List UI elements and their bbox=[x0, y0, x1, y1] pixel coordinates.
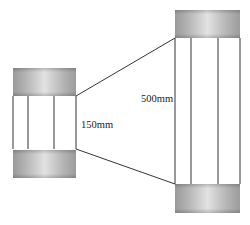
small-pipe-bottom-cap bbox=[13, 150, 76, 178]
large-pipe-bottom-cap bbox=[175, 184, 240, 213]
large-pipe bbox=[175, 10, 240, 213]
large-pipe-top-cap bbox=[175, 10, 240, 38]
cone-top-edge bbox=[76, 38, 175, 96]
small-pipe-top-cap bbox=[13, 68, 76, 96]
small-pipe-body bbox=[13, 96, 76, 149]
large-pipe-diameter-label: 500mm bbox=[141, 93, 173, 104]
small-pipe bbox=[13, 68, 76, 178]
small-pipe-diameter-label: 150mm bbox=[81, 119, 113, 130]
large-pipe-body bbox=[175, 38, 240, 184]
cone-bottom-edge bbox=[76, 149, 175, 184]
pipe-reducer-diagram: 150mm 500mm bbox=[0, 0, 250, 225]
reducer-cone bbox=[76, 38, 175, 184]
